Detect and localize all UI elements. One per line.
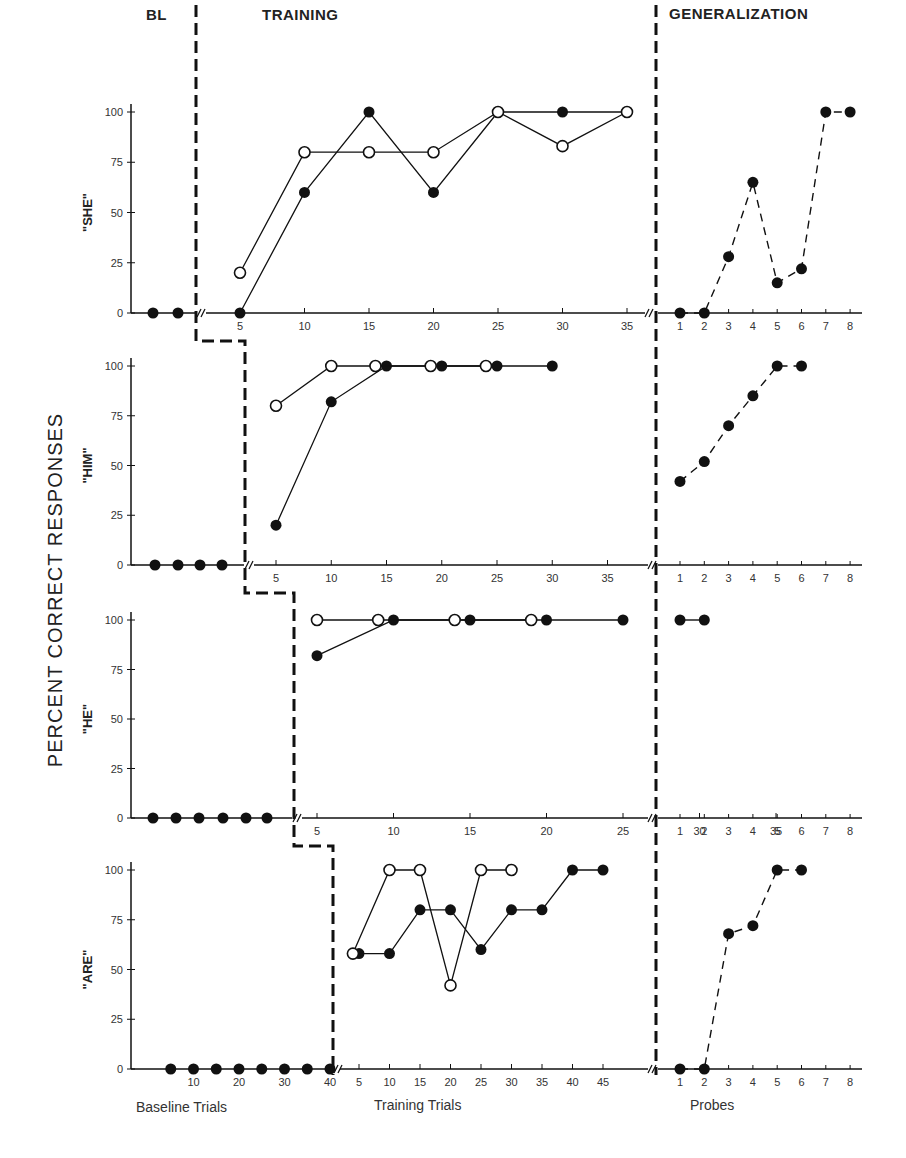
x-tick-label: 30 [505, 1076, 517, 1088]
probe-point [723, 420, 734, 431]
baseline-point [165, 1064, 176, 1075]
filled-point [384, 948, 395, 959]
y-tick-label: 0 [117, 559, 123, 571]
x-tick-label: 20 [427, 320, 439, 332]
y-tick-label: 50 [111, 964, 123, 976]
y-tick-label: 0 [117, 307, 123, 319]
panel-2: 0255075100"HIM"510152025303512345678 [80, 358, 862, 584]
probe-tick-label: 7 [823, 1076, 829, 1088]
x-tick-label: 45 [597, 1076, 609, 1088]
filled-point [598, 865, 609, 876]
open-point [476, 865, 487, 876]
probe-point [772, 865, 783, 876]
baseline-tick-label: 40 [324, 1076, 336, 1088]
filled-point [299, 187, 310, 198]
probe-point [723, 928, 734, 939]
probe-point [820, 107, 831, 118]
baseline-point [195, 560, 206, 571]
probe-point [747, 177, 758, 188]
panel-title: "SHE" [80, 193, 95, 232]
probe-point [772, 361, 783, 372]
filled-point [312, 650, 323, 661]
baseline-point [234, 1064, 245, 1075]
open-point [425, 361, 436, 372]
open-point [364, 147, 375, 158]
probe-tick-label: 6 [798, 572, 804, 584]
x-tick-label: 25 [491, 572, 503, 584]
probe-tick-label: 7 [823, 572, 829, 584]
x-axis-title-probes: Probes [690, 1097, 734, 1113]
probe-tick-label: 1 [677, 1076, 683, 1088]
probe-tick-label: 2 [701, 1076, 707, 1088]
y-tick-label: 50 [111, 460, 123, 472]
phase-label-generalization: GENERALIZATION [669, 5, 808, 22]
filled-point [618, 615, 629, 626]
baseline-point [262, 813, 273, 824]
baseline-tick-label: 20 [233, 1076, 245, 1088]
y-tick-label: 75 [111, 914, 123, 926]
probe-point [723, 251, 734, 262]
probe-tick-label: 3 [726, 825, 732, 837]
y-tick-label: 50 [111, 207, 123, 219]
open-point [493, 107, 504, 118]
x-tick-label: 10 [383, 1076, 395, 1088]
probe-tick-label: 4 [750, 1076, 756, 1088]
probe-tick-label: 8 [847, 825, 853, 837]
open-point [235, 267, 246, 278]
baseline-point [173, 560, 184, 571]
probe-point [772, 277, 783, 288]
generalization-line [680, 366, 802, 481]
probe-tick-label: 7 [823, 825, 829, 837]
probe-tick-label: 2 [701, 572, 707, 584]
probe-tick-label: 7 [823, 320, 829, 332]
generalization-line [680, 112, 850, 313]
probe-tick-label: 4 [750, 572, 756, 584]
y-tick-label: 25 [111, 257, 123, 269]
filled-point [537, 904, 548, 915]
open-point [526, 615, 537, 626]
filled-point [567, 865, 578, 876]
probe-tick-label: 5 [774, 825, 780, 837]
training-line-open [353, 870, 512, 985]
probe-tick-label: 4 [750, 825, 756, 837]
x-tick-label: 15 [380, 572, 392, 584]
probe-tick-label: 3 [726, 1076, 732, 1088]
open-point [271, 400, 282, 411]
open-point [326, 361, 337, 372]
open-point [415, 865, 426, 876]
probe-tick-label: 5 [774, 572, 780, 584]
y-tick-label: 100 [105, 864, 123, 876]
panel-4: 0255075100"ARE"5101520253035404512345678… [80, 862, 862, 1088]
x-tick-label: 35 [621, 320, 633, 332]
x-tick-label: 20 [540, 825, 552, 837]
filled-point [271, 520, 282, 531]
baseline-point [217, 560, 228, 571]
baseline-point [256, 1064, 267, 1075]
x-tick-label: 5 [356, 1076, 362, 1088]
x-axis-title-training: Training Trials [374, 1097, 461, 1113]
y-tick-label: 0 [117, 1063, 123, 1075]
y-tick-label: 75 [111, 156, 123, 168]
y-tick-label: 50 [111, 713, 123, 725]
probe-tick-label: 6 [798, 320, 804, 332]
panel-3: 0255075100"HE"510152025303512345678 [80, 612, 862, 837]
baseline-point [194, 813, 205, 824]
x-tick-label: 10 [325, 572, 337, 584]
open-point [384, 865, 395, 876]
probe-tick-label: 8 [847, 572, 853, 584]
y-tick-label: 25 [111, 763, 123, 775]
probe-tick-label: 2 [701, 320, 707, 332]
probe-point [699, 615, 710, 626]
panel-title: "HIM" [80, 447, 95, 483]
training-line-open [276, 366, 486, 406]
probe-tick-label: 3 [726, 572, 732, 584]
probe-tick-label: 8 [847, 1076, 853, 1088]
baseline-tick-label: 10 [187, 1076, 199, 1088]
probe-point [796, 361, 807, 372]
y-tick-label: 100 [105, 106, 123, 118]
phase-label-bl: BL [146, 6, 167, 23]
probe-point [747, 390, 758, 401]
probe-point [675, 615, 686, 626]
x-tick-label: 20 [444, 1076, 456, 1088]
filled-point [235, 308, 246, 319]
